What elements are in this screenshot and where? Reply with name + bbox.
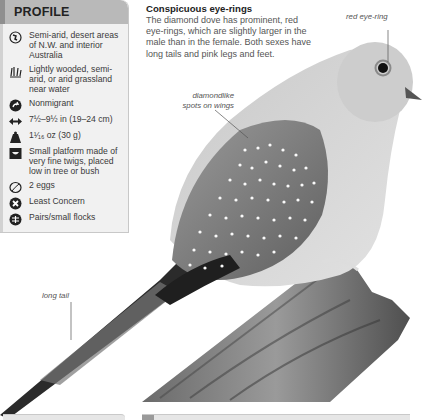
profile-item-distribution: Semi-arid, desert areas of N.W. and inte… xyxy=(8,30,126,61)
bar-accent xyxy=(142,415,154,420)
weight-icon xyxy=(8,130,22,144)
panel-left-edge xyxy=(0,24,3,232)
annotation-eye-ring: red eye-ring xyxy=(346,12,388,21)
eggs-text: 2 eggs xyxy=(29,180,55,190)
profile-item-status: Least Concern xyxy=(8,196,126,210)
profile-item-habitat: Lightly wooded, semi-arid, or arid grass… xyxy=(8,64,126,95)
status-text: Least Concern xyxy=(29,196,85,206)
next-panel-edge-right xyxy=(142,414,410,420)
annotation-wing-spots-1: diamondlike xyxy=(172,91,234,100)
social-text: Pairs/small flocks xyxy=(29,212,95,222)
globe-icon xyxy=(8,30,22,44)
next-panel-edge-left xyxy=(3,414,125,420)
caption-heading: Conspicuous eye-rings xyxy=(146,3,318,15)
caption-block: Conspicuous eye-rings The diamond dove h… xyxy=(146,3,318,60)
profile-panel: PROFILE Semi-arid, desert areas of N.W. … xyxy=(0,0,129,233)
social-grouping-icon xyxy=(8,212,22,226)
nest-icon xyxy=(8,146,22,160)
profile-header: PROFILE xyxy=(0,0,128,24)
profile-item-weight: 1¹⁄₁₆ oz (30 g) xyxy=(8,130,126,144)
conservation-status-icon xyxy=(8,196,22,210)
migration-text: Nonmigrant xyxy=(29,98,73,108)
distribution-text: Semi-arid, desert areas of N.W. and inte… xyxy=(29,30,126,61)
annotation-tail: long tail xyxy=(42,291,69,300)
eggs-icon xyxy=(8,180,22,194)
profile-item-social: Pairs/small flocks xyxy=(8,212,126,226)
weight-text: 1¹⁄₁₆ oz (30 g) xyxy=(29,130,81,140)
annotation-wing-spots-2: spots on wings xyxy=(160,101,234,110)
migration-icon xyxy=(8,98,22,112)
profile-item-length: 7½–9½ in (19–24 cm) xyxy=(8,114,126,128)
profile-item-migration: Nonmigrant xyxy=(8,98,126,112)
profile-item-eggs: 2 eggs xyxy=(8,180,126,194)
grassland-habitat-icon xyxy=(8,64,22,78)
profile-item-nest: Small platform made of very fine twigs, … xyxy=(8,146,126,177)
header-accent-edge xyxy=(0,0,5,24)
wingspan-length-icon xyxy=(8,114,22,128)
nest-text: Small platform made of very fine twigs, … xyxy=(29,146,126,177)
caption-body: The diamond dove has prominent, red eye-… xyxy=(146,15,318,60)
profile-title: PROFILE xyxy=(14,5,70,19)
habitat-text: Lightly wooded, semi-arid, or arid grass… xyxy=(29,64,126,95)
length-text: 7½–9½ in (19–24 cm) xyxy=(29,114,113,124)
